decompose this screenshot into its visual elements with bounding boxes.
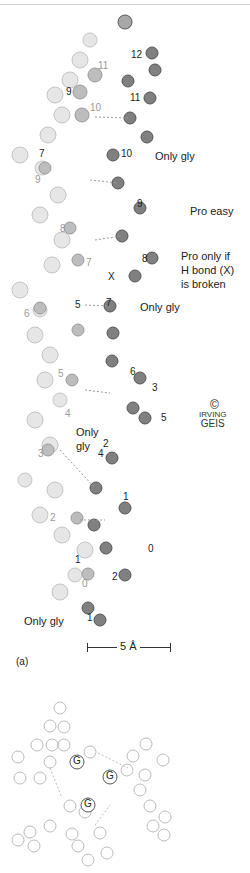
residue-11-light: 11 (98, 60, 108, 71)
residue-7-light: 7 (86, 257, 92, 268)
residue-2-light: 2 (50, 512, 56, 523)
residue-0: 0 (148, 543, 154, 554)
annotation-only-gly-4-line1: Only (76, 426, 99, 439)
residue-9-mid: 9 (66, 86, 72, 97)
annotation-only-gly-1: Only gly (24, 615, 64, 628)
helix-model (0, 0, 250, 873)
residue-11: 11 (130, 92, 140, 103)
residue-3: 3 (152, 382, 158, 393)
residue-8-mid: 7 (39, 148, 45, 159)
residue-9: 9 (137, 198, 143, 209)
gly-label: G (106, 770, 114, 781)
residue-8: 8 (142, 253, 148, 264)
signature-line2: GEIS (199, 419, 226, 428)
residue-4-light: 4 (65, 408, 71, 419)
annotation-pro-easy: Pro easy (190, 205, 233, 218)
annotation-only-gly-4-line2: gly (76, 440, 90, 453)
residue-1-mid: 1 (75, 554, 81, 565)
scale-bar-tick-left (87, 643, 88, 652)
residue-5: 5 (161, 412, 167, 423)
residue-3-light: 3 (38, 448, 44, 459)
artist-signature: IRVING GEIS (199, 410, 226, 428)
residue-8-light: 8 (60, 223, 66, 234)
residue-0-light: 0 (82, 578, 88, 589)
residue-2: 2 (103, 438, 109, 449)
scale-bar-label: 5 Å (117, 640, 140, 652)
residue-9-light: 9 (35, 174, 41, 185)
residue-1: 1 (123, 491, 129, 502)
x-marker: X (108, 270, 115, 283)
residue-2-dark: 2 (112, 571, 118, 582)
annotation-only-gly-10: Only gly (155, 150, 195, 163)
residue-10: 10 (121, 148, 132, 159)
residue-12: 12 (131, 49, 142, 60)
residue-6: 6 (130, 366, 136, 377)
annotation-pro-only-if-2: H bond (X) (181, 264, 234, 277)
scale-bar: 5 Å (87, 641, 171, 653)
residue-7: 7 (106, 297, 112, 308)
residue-6-light: 6 (24, 308, 30, 319)
panel-label: (a) (16, 656, 28, 667)
residue-5-light: 5 (58, 368, 64, 379)
residue-1-dark: 1 (87, 612, 93, 623)
annotation-pro-only-if-3: is broken (181, 278, 226, 291)
residue-4: 4 (98, 448, 104, 459)
scale-bar-tick-right (170, 643, 171, 652)
residue-5-mid: 5 (75, 299, 81, 310)
annotation-only-gly-7: Only gly (140, 301, 180, 314)
mid-chain (34, 68, 102, 580)
cross-section (12, 702, 171, 866)
gly-label: G (73, 755, 81, 766)
annotation-pro-only-if-1: Pro only if (181, 250, 230, 263)
residue-10-light: 10 (90, 102, 101, 113)
gly-label: G (84, 798, 92, 809)
